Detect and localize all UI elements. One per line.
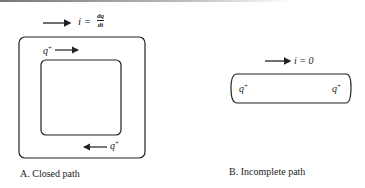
- closed-path-diagram: [19, 23, 145, 158]
- current-label-zero: i = 0: [294, 55, 314, 66]
- current-fraction: dq dt: [97, 12, 104, 29]
- inner-loop: [41, 60, 121, 135]
- current-label: i =: [78, 15, 91, 27]
- caption-closed-path: A. Closed path: [20, 168, 80, 179]
- charge-label-right: q+: [332, 82, 341, 94]
- charge-label-bottom: q+: [110, 139, 119, 151]
- diagram-canvas: [0, 0, 365, 188]
- caption-incomplete-path: B. Incomplete path: [229, 166, 305, 177]
- charge-label-left: q+: [239, 82, 248, 94]
- outer-loop: [19, 37, 145, 158]
- charge-label-top: q+: [43, 44, 52, 56]
